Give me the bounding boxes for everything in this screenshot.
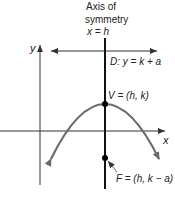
- directrix-label: D: y = k + a: [110, 56, 162, 67]
- focus-leader-line: [108, 161, 117, 172]
- x-axis-label: x: [162, 134, 169, 146]
- title-line1: Axis of: [86, 1, 116, 12]
- parabola-diagram: Axis of symmetry x = h y x D: y = k + a …: [0, 0, 175, 197]
- title-line2: symmetry: [85, 14, 128, 25]
- title-line3: x = h: [86, 26, 109, 37]
- vertex-point: [102, 101, 108, 107]
- focus-point: [102, 155, 108, 161]
- focus-label: F = (h, k − a): [116, 173, 173, 184]
- vertex-label: V = (h, k): [108, 90, 149, 101]
- y-axis-label: y: [29, 42, 37, 54]
